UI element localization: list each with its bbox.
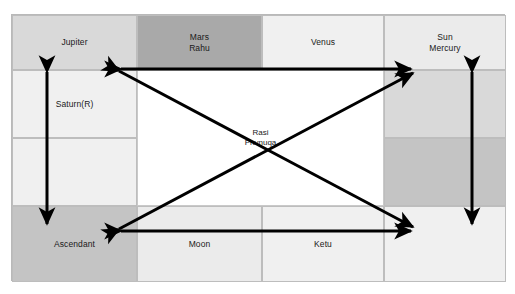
cell-label-ketu: Ketu — [314, 239, 332, 250]
chart-cell-bottom-right[interactable] — [384, 206, 506, 282]
cell-label-sun-mercury: Sun Mercury — [429, 32, 460, 53]
rasi-chart: Jupiter Mars Rahu Venus Sun Mercury Satu… — [0, 0, 515, 294]
chart-frame: Jupiter Mars Rahu Venus Sun Mercury Satu… — [11, 14, 505, 281]
cell-label-mars-rahu: Mars Rahu — [189, 32, 210, 53]
chart-cell-left-lower[interactable] — [12, 138, 137, 206]
cell-label-venus: Venus — [311, 37, 335, 48]
chart-cell-sun-mercury[interactable]: Sun Mercury — [384, 15, 506, 70]
chart-center-area: Rasi Phvnuqa — [137, 70, 384, 206]
chart-cell-ascendant[interactable]: Ascendant — [12, 206, 137, 282]
chart-cell-saturn[interactable]: Saturn(R) — [12, 70, 137, 138]
chart-center-label: Rasi Phvnuqa — [245, 128, 277, 147]
chart-cell-ketu[interactable]: Ketu — [262, 206, 384, 282]
chart-cell-right-lower[interactable] — [384, 138, 506, 206]
chart-cell-right-upper[interactable] — [384, 70, 506, 138]
chart-cell-mars-rahu[interactable]: Mars Rahu — [137, 15, 262, 70]
chart-cell-jupiter[interactable]: Jupiter — [12, 15, 137, 70]
cell-label-ascendant: Ascendant — [54, 239, 95, 250]
chart-cell-moon[interactable]: Moon — [137, 206, 262, 282]
cell-label-jupiter: Jupiter — [61, 37, 87, 48]
chart-cell-venus[interactable]: Venus — [262, 15, 384, 70]
cell-label-saturn: Saturn(R) — [56, 99, 94, 110]
cell-label-moon: Moon — [189, 239, 211, 250]
